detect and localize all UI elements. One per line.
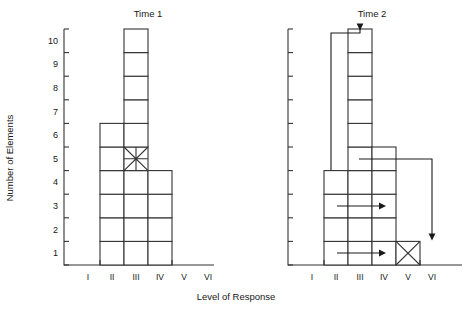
x-label-VI: VI: [428, 272, 436, 282]
y-axis-title-group: Number of Elements: [4, 114, 15, 201]
y-tick-label-1: 1: [53, 248, 58, 258]
panel-time-1-x-labels: I II III IV V VI: [87, 272, 212, 282]
cell-time1-III-0-1-vertical-lines: [124, 241, 148, 265]
y-tick-label-3: 3: [53, 201, 58, 211]
cell-time1-III-x-cross-marks: [124, 147, 148, 171]
panel-time-2-x-labels: I II III IV V VI: [311, 272, 436, 282]
y-tick-label-5: 5: [53, 154, 58, 164]
cell-time2-IV-1-2-horizontal-lines: [372, 218, 396, 242]
x-label-I: I: [87, 272, 89, 282]
y-tick-label-2: 2: [53, 225, 58, 235]
y-tick-label-6: 6: [53, 130, 58, 140]
x-label-IV: IV: [380, 272, 388, 282]
x-label-VI: VI: [204, 272, 212, 282]
bar-time-1-II: [100, 123, 124, 265]
bar-time-1-IV: [148, 171, 172, 265]
panel-time-2-title: Time 2: [358, 8, 387, 19]
x-label-I: I: [311, 272, 313, 282]
y-tick-label-7: 7: [53, 107, 58, 117]
y-tick-label-4: 4: [53, 177, 58, 187]
bar-time-2-III: [348, 29, 372, 265]
y-tick-label-10: 10: [48, 36, 58, 46]
bar-time-1-III: [124, 29, 148, 265]
y-tick-label-9: 9: [53, 59, 58, 69]
cell-time1-II-5-6-diagonal-hatch: [100, 123, 124, 147]
x-label-II: II: [110, 272, 115, 282]
panel-time-1-y-tick-labels: 1 2 3 4 5 6 7 8 9 10: [48, 36, 58, 258]
x-label-III: III: [356, 272, 363, 282]
panel-time-2: Time 2: [288, 8, 462, 282]
x-label-II: II: [334, 272, 339, 282]
cell-time1-IV-1-2-horizontal-lines: [148, 218, 172, 242]
bar-time-2-II: [324, 171, 348, 265]
panel-time-1: Time 1 1 2 3 4: [48, 8, 214, 282]
figure-root: Number of Elements Time 1: [0, 0, 472, 313]
x-axis-title: Level of Response: [197, 291, 276, 302]
two-panel-histogram-figure: Number of Elements Time 1: [0, 0, 472, 313]
y-axis-title: Number of Elements: [4, 114, 15, 201]
x-label-V: V: [405, 272, 411, 282]
x-label-V: V: [181, 272, 187, 282]
x-label-III: III: [132, 272, 139, 282]
x-label-IV: IV: [156, 272, 164, 282]
cell-time1-III-2-3-diagonal-hatch: [124, 194, 148, 218]
panel-time-1-y-ticks: [64, 29, 69, 265]
panel-time-1-title: Time 1: [134, 8, 163, 19]
panel-time-2-y-ticks: [288, 29, 293, 265]
bar-time-2-V: [396, 241, 420, 265]
y-tick-label-8: 8: [53, 83, 58, 93]
